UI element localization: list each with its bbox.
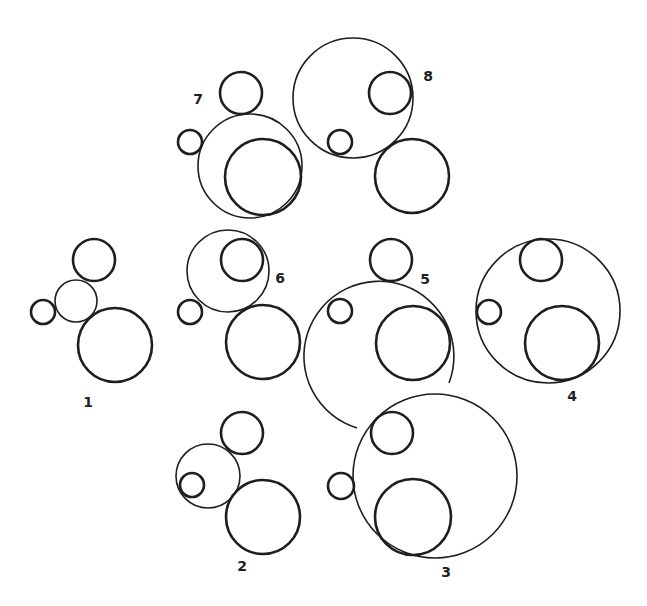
small-circle-inner: [221, 239, 263, 281]
small-circle-top: [73, 239, 115, 281]
tiny-circle-left: [31, 300, 55, 324]
large-circle: [78, 308, 152, 382]
large-circle-outside: [375, 139, 449, 213]
label-7: 7: [193, 91, 203, 107]
label-4: 4: [567, 388, 577, 404]
large-circle-inner: [525, 306, 599, 380]
circle-configurations-diagram: 7 8 1 6 5 4: [0, 0, 647, 606]
configuration-5: 5: [304, 239, 454, 428]
large-circle-inner: [376, 306, 450, 380]
label-8: 8: [423, 68, 433, 84]
configuration-3: 3: [328, 394, 517, 580]
tiny-circle-inner: [328, 299, 352, 323]
label-6: 6: [275, 270, 285, 286]
label-1: 1: [83, 394, 93, 410]
configuration-4: 4: [476, 239, 620, 404]
small-circle-inner: [371, 412, 413, 454]
configuration-2: 2: [176, 412, 300, 574]
tiny-circle-outside: [328, 473, 354, 499]
large-circle: [226, 480, 300, 554]
small-circle-top: [520, 239, 562, 281]
tiny-circle-inner: [328, 130, 352, 154]
enclosing-circle: [198, 114, 302, 218]
label-3: 3: [441, 564, 451, 580]
label-5: 5: [420, 271, 430, 287]
large-circle: [226, 305, 300, 379]
label-2: 2: [237, 558, 247, 574]
large-circle-inner: [225, 139, 301, 215]
tiny-circle-left: [178, 300, 202, 324]
configuration-7: 7: [178, 72, 302, 218]
tiny-circle-left: [477, 300, 501, 324]
small-circle-top: [370, 239, 412, 281]
enclosing-circle: [187, 230, 269, 312]
small-circle-top: [220, 72, 262, 114]
small-circle-top: [221, 412, 263, 454]
configuration-6: 6: [178, 230, 300, 379]
small-circle-inner: [369, 72, 411, 114]
tiny-circle-left: [178, 130, 202, 154]
large-circle-inner: [375, 479, 451, 555]
configuration-8: 8: [293, 38, 449, 213]
configuration-1: 1: [31, 239, 152, 410]
enclosing-circle: [476, 239, 620, 383]
tiny-circle-inner: [180, 473, 204, 497]
